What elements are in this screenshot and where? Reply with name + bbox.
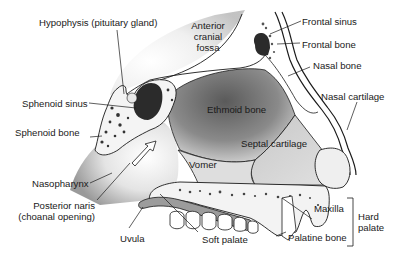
label-sphenoid-sinus: Sphenoid sinus: [22, 98, 88, 109]
label-nasal-cartilage: Nasal cartilage: [321, 91, 384, 102]
label-anterior-cranial-fossa: Anterior cranial fossa: [183, 20, 233, 53]
hard-palate-bracket: [347, 198, 353, 246]
label-line: Hard: [358, 211, 384, 222]
label-nasopharynx: Nasopharynx: [32, 178, 89, 189]
label-septal-cartilage: Septal cartilage: [241, 138, 307, 149]
label-soft-palate: Soft palate: [202, 234, 248, 245]
label-vomer: Vomer: [189, 159, 217, 170]
label-sphenoid-bone: Sphenoid bone: [15, 127, 80, 138]
label-hard-palate: Hard palate: [358, 211, 384, 233]
label-line: cranial: [183, 31, 233, 42]
label-uvula: Uvula: [120, 233, 145, 244]
label-line: palate: [358, 222, 384, 233]
frontal-sinus-shape: [254, 33, 270, 56]
label-line: Posterior naris: [17, 200, 95, 211]
label-frontal-sinus: Frontal sinus: [302, 16, 357, 27]
label-maxilla: Maxilla: [314, 203, 344, 214]
label-hypophysis: Hypophysis (pituitary gland): [39, 17, 157, 28]
hypophysis-shape: [127, 93, 137, 103]
nasal-alar-cartilage-shape: [315, 148, 350, 188]
label-palatine-bone: Palatine bone: [288, 232, 347, 243]
label-nasal-bone: Nasal bone: [313, 60, 362, 71]
label-line: Anterior: [183, 20, 233, 31]
label-line: fossa: [183, 42, 233, 53]
label-ethmoid-bone: Ethmoid bone: [207, 104, 266, 115]
label-frontal-bone: Frontal bone: [302, 39, 356, 50]
label-posterior-naris: Posterior naris (choanal opening): [17, 200, 95, 222]
label-line: (choanal opening): [17, 211, 95, 222]
